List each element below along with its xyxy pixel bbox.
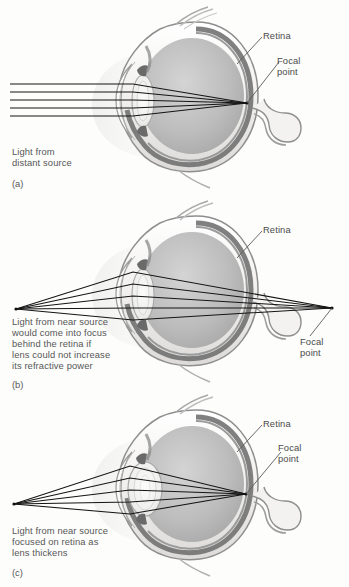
caption-line-2: distant source xyxy=(12,157,72,168)
label-retina: Retina xyxy=(263,30,291,41)
muscle-tendon-3 xyxy=(178,558,210,576)
vitreous-body xyxy=(140,38,244,154)
near-source-marker xyxy=(14,307,17,310)
label-focal-point: Focal point xyxy=(300,336,323,358)
lens xyxy=(132,75,154,127)
panel-marker-c: (c) xyxy=(12,567,23,578)
lens xyxy=(132,269,154,321)
caption-line-1: Light from near source xyxy=(12,316,108,327)
focal-point-leader-line xyxy=(310,308,332,336)
eye-accommodation-figure: Retina Focal point Light from distant so… xyxy=(0,0,349,587)
panel-marker-b: (b) xyxy=(12,379,23,390)
label-focal-point: Focal point xyxy=(277,55,300,77)
caption-line-1: Light from near source xyxy=(12,525,108,536)
panel-b: Retina Focal point Light from near sourc… xyxy=(0,196,349,392)
caption-line-2: would come into focus xyxy=(12,327,107,338)
label-focal-point: Focal point xyxy=(278,442,301,464)
muscle-tendon-3 xyxy=(178,364,210,382)
label-retina: Retina xyxy=(263,418,291,429)
caption-line-5: its refractive power xyxy=(12,360,93,371)
caption-line-1: Light from xyxy=(12,146,55,157)
panel-c: Retina Focal point Light from near sourc… xyxy=(0,392,349,587)
panel-a: Retina Focal point Light from distant so… xyxy=(0,0,349,196)
caption-line-4: lens could not increase xyxy=(12,349,110,360)
caption-line-3: lens thickens xyxy=(12,547,68,558)
near-source-marker xyxy=(12,502,15,505)
muscle-tendon-4 xyxy=(178,170,210,188)
caption-line-3: behind the retina if xyxy=(12,338,91,349)
label-retina: Retina xyxy=(263,224,291,235)
caption-line-2: focused on retina as xyxy=(12,536,98,547)
optic-nerve xyxy=(252,99,301,142)
panel-marker-a: (a) xyxy=(12,178,23,189)
optic-nerve xyxy=(252,487,301,530)
vitreous-body xyxy=(140,232,244,348)
